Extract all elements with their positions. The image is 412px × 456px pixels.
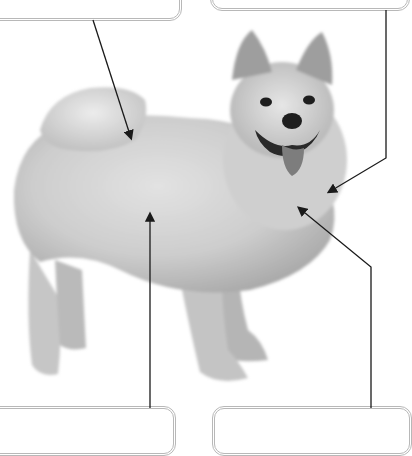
hind-leg-right xyxy=(55,260,86,349)
nose xyxy=(282,113,302,129)
callout-box-bottom-right xyxy=(212,406,412,456)
eye-right xyxy=(303,96,315,105)
dog xyxy=(14,30,347,381)
tail xyxy=(40,87,146,151)
ear-left xyxy=(232,30,272,80)
eye-left xyxy=(260,98,272,107)
callout-box-bottom-left xyxy=(0,406,176,456)
